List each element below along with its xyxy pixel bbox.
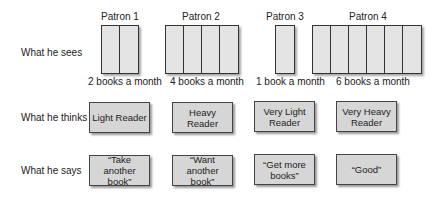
book: [385, 26, 403, 73]
book: [120, 26, 138, 73]
patron-4-says: “Good”: [336, 154, 397, 185]
row-label-says: What he says: [21, 165, 82, 176]
patron-1-books: [101, 25, 139, 74]
patron-3-books: [275, 25, 295, 74]
patron-2-caption: 4 books a month: [170, 76, 244, 87]
book: [202, 26, 220, 73]
book: [102, 26, 120, 73]
patron-2-says: “Want another book”: [172, 155, 233, 186]
patron-3-caption: 1 book a month: [256, 76, 325, 87]
patron-1-header: Patron 1: [90, 11, 150, 22]
patron-perception-diagram: What he sees What he thinks What he says…: [0, 0, 440, 203]
patron-3-header: Patron 3: [255, 11, 315, 22]
patron-2-header: Patron 2: [171, 11, 231, 22]
book: [184, 26, 202, 73]
book: [276, 26, 294, 73]
patron-3-says: “Get more books”: [254, 154, 315, 185]
patron-1-says: “Take another book”: [89, 155, 150, 186]
book: [349, 26, 367, 73]
patron-3-thinks: Very Light Reader: [254, 101, 315, 132]
patron-2-books: [165, 25, 239, 74]
book: [367, 26, 385, 73]
patron-4-books: [312, 25, 422, 74]
patron-4-caption: 6 books a month: [336, 76, 410, 87]
row-label-thinks: What he thinks: [21, 112, 87, 123]
patron-4-header: Patron 4: [338, 11, 398, 22]
book: [403, 26, 421, 73]
patron-2-thinks: Heavy Reader: [172, 102, 233, 133]
book: [166, 26, 184, 73]
row-label-sees: What he sees: [21, 47, 82, 58]
patron-1-thinks: Light Reader: [89, 102, 150, 133]
patron-4-thinks: Very Heavy Reader: [336, 101, 397, 132]
book: [220, 26, 238, 73]
book: [331, 26, 349, 73]
patron-1-caption: 2 books a month: [88, 76, 162, 87]
book: [313, 26, 331, 73]
